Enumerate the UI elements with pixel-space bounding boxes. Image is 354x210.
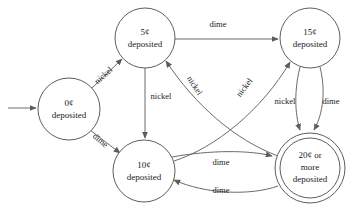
state-diagram-canvas: 0¢ deposited 5¢ deposited 15¢ deposited … [0, 0, 354, 210]
edge-label-0c-to-5c: nickel [92, 64, 115, 86]
state-15c[interactable]: 15¢ deposited [280, 8, 340, 68]
state-10c-label-line1: 10¢ [137, 160, 151, 170]
state-5c[interactable]: 5¢ deposited [115, 8, 175, 68]
state-0c-label-line2: deposited [52, 110, 87, 120]
state-10c-label-line2: deposited [127, 172, 162, 182]
state-20c-or-more-accepting[interactable]: 20¢ or more deposited [275, 133, 345, 203]
edge-label-20c-to-5c: nickel [185, 74, 205, 97]
edge-label-20c-to-10c: dime [213, 185, 230, 195]
edge-label-10c-to-15c: nickel [234, 76, 255, 99]
edge-label-5c-to-10c: nickel [151, 91, 172, 101]
state-20c-label-line3: deposited [293, 174, 328, 184]
state-15c-label-line2: deposited [293, 39, 328, 49]
transition-20c-to-5c [166, 61, 278, 156]
state-5c-label-line1: 5¢ [141, 27, 150, 37]
state-20c-label-line2: more [301, 162, 320, 172]
edge-label-15c-to-20c-dime: dime [323, 96, 340, 106]
state-0c[interactable]: 0¢ deposited [38, 78, 100, 140]
state-20c-label-line1: 20¢ or [298, 150, 321, 160]
transition-15c-to-20c-nickel [296, 67, 300, 130]
state-15c-label-line1: 15¢ [303, 27, 317, 37]
state-0c-label-line1: 0¢ [65, 98, 74, 108]
edge-label-10c-to-20c: dime [213, 157, 230, 167]
edge-label-15c-to-20c-nickel: nickel [275, 96, 296, 106]
state-5c-label-line2: deposited [128, 39, 163, 49]
state-10c[interactable]: 10¢ deposited [113, 140, 175, 202]
fsm-diagram: 0¢ deposited 5¢ deposited 15¢ deposited … [0, 0, 354, 210]
edge-label-0c-to-10c: dime [91, 131, 111, 150]
edge-label-5c-to-15c: dime [210, 19, 227, 29]
